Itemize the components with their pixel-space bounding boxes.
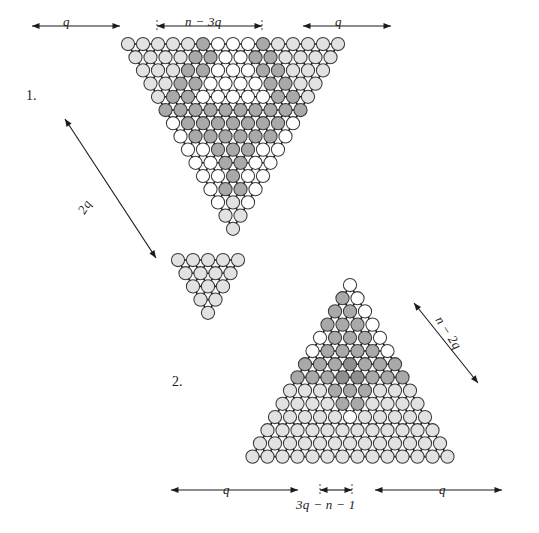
lattice-node: [256, 37, 269, 50]
lattice-node: [283, 384, 296, 397]
lattice-node: [241, 143, 254, 156]
lattice-node: [249, 156, 262, 169]
lattice-node: [159, 77, 172, 90]
lattice-node: [291, 450, 304, 463]
lattice-node: [264, 51, 277, 64]
lattice-node: [351, 344, 364, 357]
lattice-node: [249, 130, 262, 143]
lattice-node: [241, 90, 254, 103]
lattice-node: [358, 331, 371, 344]
lattice-node: [201, 306, 214, 319]
dimension-arrow-q-bottom-left: [171, 487, 298, 493]
lattice-node: [204, 103, 217, 116]
lattice-node: [294, 77, 307, 90]
lattice-node: [219, 156, 232, 169]
lattice-node: [301, 64, 314, 77]
lattice-node: [343, 410, 356, 423]
lattice-node: [309, 77, 322, 90]
panel-2-lattice: [246, 278, 454, 463]
lattice-node: [313, 437, 326, 450]
lattice-node: [306, 397, 319, 410]
lattice-node: [351, 397, 364, 410]
lattice-node: [241, 196, 254, 209]
dimension-label-3q-minus-n-minus-1: 3q − n − 1: [296, 497, 356, 513]
lattice-node: [136, 37, 149, 50]
lattice-node: [196, 37, 209, 50]
panel-1-number: 1.: [26, 88, 37, 104]
lattice-node: [264, 103, 277, 116]
dimension-arrow-2q: [65, 119, 156, 258]
lattice-node: [226, 37, 239, 50]
lattice-node: [403, 410, 416, 423]
lattice-node: [388, 410, 401, 423]
lattice-node: [241, 117, 254, 130]
lattice-node: [313, 384, 326, 397]
lattice-node: [283, 410, 296, 423]
lattice-node: [186, 253, 199, 266]
arrow-head: [255, 23, 263, 29]
lattice-node: [321, 424, 334, 437]
lattice-node: [313, 331, 326, 344]
arrow-head: [171, 487, 179, 493]
lattice-node: [181, 90, 194, 103]
lattice-node: [321, 344, 334, 357]
lattice-node: [204, 156, 217, 169]
lattice-node: [144, 51, 157, 64]
lattice-node: [291, 397, 304, 410]
lattice-node: [211, 143, 224, 156]
lattice-node: [271, 90, 284, 103]
arrow-head: [414, 303, 421, 311]
dimension-arrow-3q-minus-n-minus-1: [320, 484, 352, 496]
lattice-node: [211, 169, 224, 182]
lattice-node: [241, 64, 254, 77]
lattice-node: [174, 103, 187, 116]
lattice-node: [166, 64, 179, 77]
lattice-node: [196, 64, 209, 77]
dimension-label-q-bottom-right: q: [439, 482, 446, 498]
lattice-node: [256, 117, 269, 130]
lattice-node: [328, 384, 341, 397]
lattice-node: [249, 77, 262, 90]
lattice-node: [343, 384, 356, 397]
lattice-node: [234, 77, 247, 90]
lattice-node: [256, 90, 269, 103]
lattice-node: [388, 437, 401, 450]
lattice-node: [196, 143, 209, 156]
arrow-head: [113, 23, 121, 29]
panel-1-detached-tip: [171, 253, 244, 319]
lattice-node: [231, 253, 244, 266]
lattice-node: [226, 90, 239, 103]
lattice-node: [286, 37, 299, 50]
lattice-node: [366, 397, 379, 410]
lattice-node: [234, 103, 247, 116]
lattice-node: [324, 51, 337, 64]
lattice-node: [411, 397, 424, 410]
lattice-node: [201, 253, 214, 266]
lattice-node: [373, 437, 386, 450]
lattice-node: [343, 331, 356, 344]
lattice-node: [189, 103, 202, 116]
lattice-node: [358, 305, 371, 318]
lattice-node: [373, 384, 386, 397]
lattice-node: [351, 318, 364, 331]
arrow-head: [149, 250, 156, 258]
lattice-node: [381, 397, 394, 410]
lattice-node: [226, 143, 239, 156]
lattice-node: [211, 64, 224, 77]
panel-1-lattice: [121, 37, 344, 235]
lattice-node: [328, 437, 341, 450]
lattice-node: [298, 410, 311, 423]
lattice-node: [301, 90, 314, 103]
arrow-head: [65, 119, 72, 127]
lattice-node: [343, 305, 356, 318]
lattice-node: [343, 358, 356, 371]
lattice-node: [166, 37, 179, 50]
lattice-node: [381, 344, 394, 357]
lattice-node: [204, 130, 217, 143]
lattice-node: [279, 103, 292, 116]
lattice-node: [411, 424, 424, 437]
lattice-node: [328, 358, 341, 371]
lattice-node: [373, 410, 386, 423]
lattice-node: [211, 196, 224, 209]
lattice-node: [144, 77, 157, 90]
